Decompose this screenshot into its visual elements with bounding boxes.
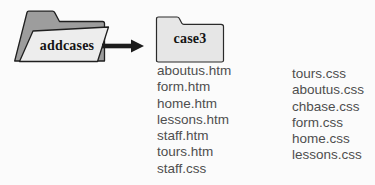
file-item: aboutus.css — [292, 82, 364, 98]
htm-file-list: aboutus.htm form.htm home.htm lessons.ht… — [157, 63, 231, 177]
arrow-head — [131, 40, 144, 53]
file-item: tours.css — [292, 66, 364, 82]
file-item: lessons.css — [292, 147, 364, 163]
css-file-list: tours.css aboutus.css chbase.css form.cs… — [292, 66, 364, 164]
file-item: staff.css — [157, 161, 231, 177]
file-item: form.css — [292, 115, 364, 131]
file-item: home.htm — [157, 96, 231, 112]
arrow-icon — [101, 38, 145, 54]
file-item: tours.htm — [157, 144, 231, 160]
file-item: lessons.htm — [157, 112, 231, 128]
folder-structure-diagram: addcases case3 aboutus.htm form.htm home… — [0, 0, 375, 185]
file-item: home.css — [292, 131, 364, 147]
open-folder-icon — [8, 8, 110, 65]
file-item: aboutus.htm — [157, 63, 231, 79]
file-item: staff.htm — [157, 128, 231, 144]
file-item: form.htm — [157, 79, 231, 95]
target-folder-label: case3 — [157, 31, 223, 47]
file-item: chbase.css — [292, 99, 364, 115]
source-folder-label: addcases — [33, 38, 101, 54]
